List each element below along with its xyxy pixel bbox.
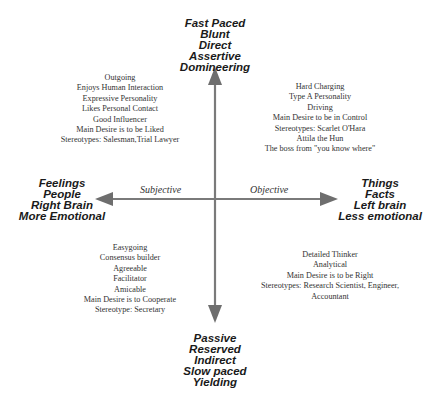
quadrant-top-right: Hard Charging Type A Personality Driving…: [250, 82, 390, 155]
personality-quadrant-diagram: Fast Paced Blunt Direct Assertive Domine…: [0, 0, 430, 401]
axis-label-subjective: Subjective: [140, 184, 181, 195]
quadrant-line: Stereotype: Secretary: [70, 305, 190, 315]
quadrant-bottom-left: Easygoing Consensus builder Agreeable Fa…: [70, 243, 190, 316]
quadrant-line: Analytical: [245, 260, 415, 270]
pole-right-item: Less emotional: [330, 211, 430, 222]
quadrant-line: Good Influencer: [50, 115, 190, 125]
pole-right: Things Facts Left brain Less emotional: [330, 178, 430, 222]
quadrant-line: Attila the Hun: [250, 134, 390, 144]
quadrant-line: Stereotypes: Salesman,Trial Lawyer: [50, 135, 190, 145]
quadrant-line: Agreeable: [70, 264, 190, 274]
quadrant-top-left: Outgoing Enjoys Human Interaction Expres…: [50, 73, 190, 146]
quadrant-line: Facilitator: [70, 274, 190, 284]
pole-bottom-item: Yielding: [165, 377, 265, 388]
quadrant-line: Enjoys Human Interaction: [50, 83, 190, 93]
pole-bottom: Passive Reserved Indirect Slow paced Yie…: [165, 333, 265, 388]
quadrant-line: Expressive Personality: [50, 94, 190, 104]
quadrant-line: Main Desire is to be Right: [245, 271, 415, 281]
quadrant-line: Hard Charging: [250, 82, 390, 92]
pole-left-item: More Emotional: [18, 211, 106, 222]
quadrant-line: Main Desire is to be Liked: [50, 125, 190, 135]
quadrant-line: Consensus builder: [70, 253, 190, 263]
quadrant-bottom-right: Detailed Thinker Analytical Main Desire …: [245, 250, 415, 302]
quadrant-line: Accountant: [245, 292, 415, 302]
quadrant-line: Main Desire to be in Control: [250, 113, 390, 123]
pole-top-item: Domineering: [165, 62, 265, 73]
axis-label-objective: Objective: [250, 184, 288, 195]
quadrant-line: The boss from "you know where": [250, 144, 390, 154]
quadrant-line: Amicable: [70, 285, 190, 295]
arrow-down-icon: [208, 305, 222, 323]
pole-left: Feelings People Right Brain More Emotion…: [18, 178, 106, 222]
quadrant-line: Easygoing: [70, 243, 190, 253]
quadrant-line: Main Desire is to Cooperate: [70, 295, 190, 305]
pole-top: Fast Paced Blunt Direct Assertive Domine…: [165, 18, 265, 73]
quadrant-line: Detailed Thinker: [245, 250, 415, 260]
horizontal-axis: [95, 192, 338, 206]
vertical-axis: [208, 67, 222, 323]
quadrant-line: Outgoing: [50, 73, 190, 83]
quadrant-line: Type A Personality: [250, 92, 390, 102]
quadrant-line: Stereotypes: Scarlet O'Hara: [250, 124, 390, 134]
quadrant-line: Driving: [250, 103, 390, 113]
quadrant-line: Stereotypes: Research Scientist, Enginee…: [245, 281, 415, 291]
quadrant-line: Likes Personal Contact: [50, 104, 190, 114]
